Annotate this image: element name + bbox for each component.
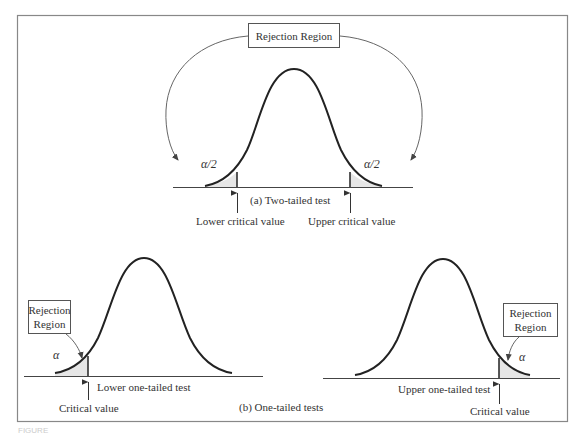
critical-value-left-label: Critical value bbox=[59, 402, 119, 414]
rejection-connector-b-left bbox=[66, 334, 82, 358]
rejection-connector-left bbox=[166, 36, 248, 160]
rejection-region-box-b-right: Rejection Region bbox=[503, 303, 558, 337]
figure-caption-faded: FIGURE bbox=[18, 426, 48, 435]
panel-b-caption: (b) One-tailed tests bbox=[239, 401, 323, 413]
rejection-connector-b-right bbox=[508, 337, 519, 360]
rejection-label-line1: Rejection bbox=[28, 303, 70, 317]
rejection-connector-right bbox=[340, 36, 422, 160]
figure-frame bbox=[18, 16, 568, 422]
upper-critical-value-label: Upper critical value bbox=[308, 215, 395, 227]
alpha-half-right: α/2 bbox=[364, 157, 380, 172]
lower-one-tailed-label: Lower one-tailed test bbox=[97, 381, 190, 393]
rejection-label-line1: Rejection bbox=[509, 306, 551, 320]
rejection-label-line2: Region bbox=[34, 317, 66, 331]
alpha-right: α bbox=[519, 350, 525, 365]
lower-critical-value-label: Lower critical value bbox=[196, 215, 285, 227]
hypothesis-test-diagram bbox=[0, 0, 585, 438]
rejection-region-box-a: Rejection Region bbox=[248, 23, 340, 48]
upper-one-tailed-label: Upper one-tailed test bbox=[398, 383, 490, 395]
alpha-half-left: α/2 bbox=[201, 157, 217, 172]
rejection-label-line2: Region bbox=[515, 320, 547, 334]
normal-curve-a bbox=[205, 69, 382, 186]
alpha-left: α bbox=[53, 348, 59, 363]
critical-value-right-label: Critical value bbox=[470, 405, 530, 417]
rejection-region-label-a: Rejection Region bbox=[256, 29, 333, 43]
panel-a-caption: (a) Two-tailed test bbox=[250, 194, 330, 206]
panel-a-two-tailed bbox=[166, 36, 422, 213]
rejection-region-box-b-left: Rejection Region bbox=[28, 300, 71, 334]
